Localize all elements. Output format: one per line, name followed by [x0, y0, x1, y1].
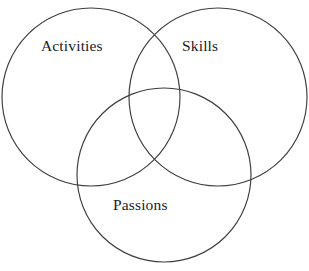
venn-diagram: Activities Skills Passions: [0, 0, 309, 271]
venn-circle-skills: [129, 8, 307, 186]
venn-label-activities: Activities: [41, 38, 103, 54]
venn-circle-passions: [77, 88, 251, 262]
venn-circle-activities: [2, 8, 180, 186]
venn-label-passions: Passions: [113, 197, 168, 213]
venn-label-skills: Skills: [182, 38, 218, 54]
